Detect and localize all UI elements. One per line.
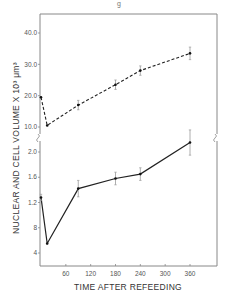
data-point: [46, 242, 49, 245]
x-tick-label: 60: [62, 270, 70, 277]
data-point: [114, 177, 117, 180]
chart: g 60120180240300360 40.030.020.010.0 2.0…: [0, 0, 227, 299]
x-tick-label: 300: [160, 270, 171, 277]
data-point: [114, 83, 117, 86]
y-tick-label: 1.6: [28, 173, 37, 180]
data-series: [40, 47, 192, 245]
y-tick-label: 20.0: [24, 92, 37, 99]
data-point: [139, 173, 142, 176]
axis-break-right-icon: [214, 134, 217, 142]
data-point: [139, 69, 142, 72]
y-tick-label: 40.0: [24, 29, 37, 36]
axis-break-left-icon: [37, 134, 40, 142]
lower-y-axis-ticks: 2.01.61.284: [28, 148, 40, 256]
data-point: [189, 52, 192, 55]
y-tick-label: 2.0: [28, 148, 37, 155]
x-tick-label: 360: [185, 270, 196, 277]
upper-y-axis-ticks: 40.030.020.010.0: [24, 29, 40, 130]
y-tick-label: 8: [33, 224, 37, 231]
y-tick-label: 30.0: [24, 61, 37, 68]
data-point: [189, 141, 192, 144]
x-tick-label: 240: [135, 270, 146, 277]
data-point: [46, 124, 49, 127]
data-point: [77, 104, 80, 107]
y-tick-label: 4: [33, 249, 37, 256]
x-tick-label: 180: [110, 270, 121, 277]
x-tick-label: 120: [85, 270, 96, 277]
data-point: [40, 196, 43, 199]
data-point: [77, 187, 80, 190]
y-tick-label: 10.0: [24, 123, 37, 130]
y-axis-title: NUCLEAR AND CELL VOLUME X 10³ μm³: [11, 62, 21, 234]
y-tick-label: 1.2: [28, 199, 37, 206]
nuclear-volume-line: [41, 143, 190, 244]
x-axis-title: TIME AFTER REFEEDING: [74, 282, 182, 292]
top-mark: g: [117, 0, 121, 8]
data-point: [40, 96, 43, 99]
